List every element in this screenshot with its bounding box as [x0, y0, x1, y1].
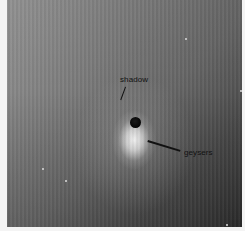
shadow-label: shadow	[120, 75, 148, 84]
star	[226, 224, 228, 226]
star	[185, 38, 187, 40]
vignette	[7, 0, 242, 227]
geysers-label: geysers	[184, 148, 213, 157]
moon-disk	[130, 117, 141, 128]
space-image	[7, 0, 242, 227]
star	[240, 90, 242, 92]
star	[65, 180, 67, 182]
star	[42, 168, 44, 170]
